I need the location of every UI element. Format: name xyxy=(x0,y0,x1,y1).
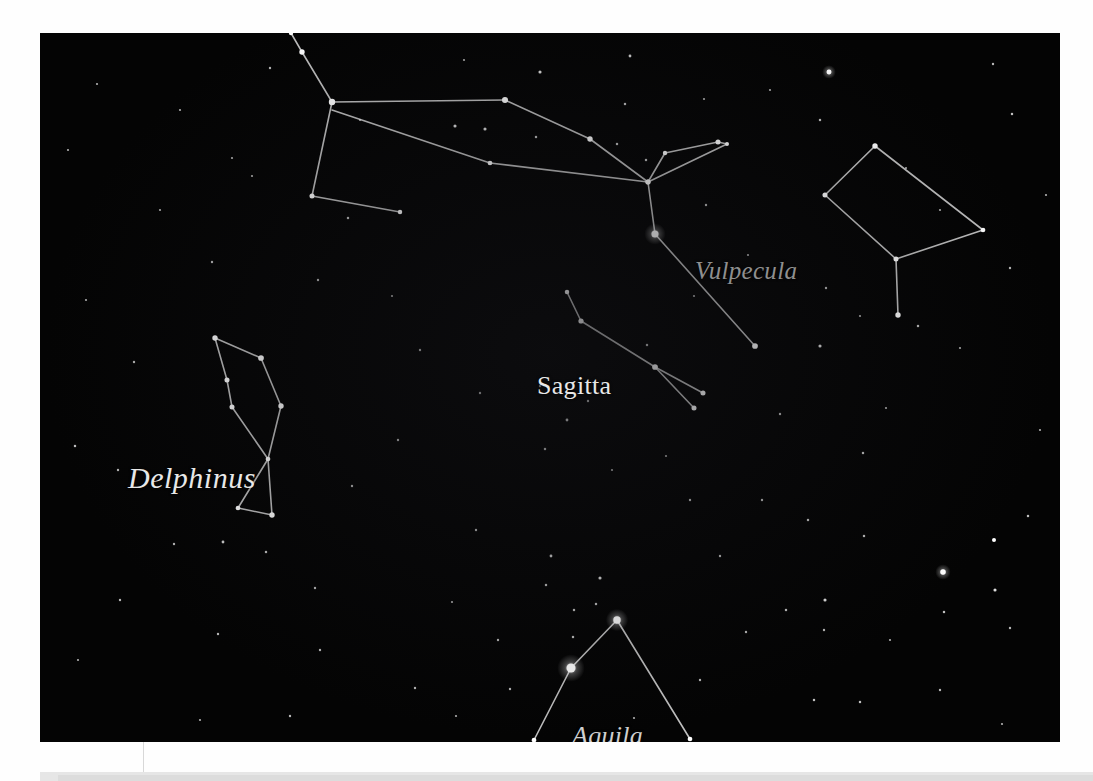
constellation-line-cygnus xyxy=(490,163,648,182)
constellation-label-vulpecula: Vulpecula xyxy=(695,257,797,285)
background-star xyxy=(633,717,635,719)
background-star xyxy=(535,136,538,139)
background-star xyxy=(992,63,994,65)
background-star xyxy=(693,295,695,297)
background-star xyxy=(222,541,225,544)
star-aquila xyxy=(688,737,693,742)
background-star xyxy=(939,689,941,691)
constellation-line-delphinus xyxy=(268,459,272,515)
star-cygnus xyxy=(502,97,508,103)
background-star xyxy=(818,344,821,347)
background-star xyxy=(251,175,253,177)
background-star xyxy=(544,448,547,451)
background-star xyxy=(314,587,316,589)
background-star xyxy=(1027,515,1030,518)
star-delphinus xyxy=(236,506,241,511)
star-delphinus xyxy=(258,355,264,361)
background-star xyxy=(475,529,477,531)
background-star xyxy=(455,715,457,717)
star-sagitta xyxy=(652,364,658,370)
constellation-line-cygnus xyxy=(302,52,332,102)
star-cygnus xyxy=(651,230,658,237)
background-star xyxy=(572,636,575,639)
background-star xyxy=(889,639,891,641)
background-star xyxy=(819,119,822,122)
background-star xyxy=(719,555,721,557)
constellation-line-cygnus xyxy=(291,33,302,52)
background-star xyxy=(497,639,499,641)
constellation-line-pegasus-equuleus xyxy=(825,195,896,259)
background-star xyxy=(863,535,866,538)
star-delphinus xyxy=(269,512,274,517)
background-star xyxy=(289,715,291,717)
background-star xyxy=(943,611,946,614)
background-star xyxy=(624,103,627,106)
background-star xyxy=(85,299,87,301)
background-star xyxy=(1009,267,1011,269)
constellation-line-cygnus xyxy=(655,234,755,346)
background-star xyxy=(479,392,481,394)
constellation-line-delphinus xyxy=(215,338,227,380)
background-star xyxy=(823,598,826,601)
background-star xyxy=(573,609,576,612)
background-star xyxy=(1009,627,1011,629)
background-star xyxy=(629,55,632,58)
star-cygnus xyxy=(309,193,314,198)
background-star xyxy=(545,584,548,587)
constellation-line-cygnus xyxy=(312,102,332,196)
star-vulpecula xyxy=(715,139,720,144)
background-star xyxy=(159,209,161,211)
background-star xyxy=(905,167,907,169)
constellation-line-pegasus-equuleus xyxy=(875,146,983,230)
star-delphinus xyxy=(224,377,229,382)
background-star xyxy=(813,699,816,702)
background-star xyxy=(483,127,486,130)
background-star xyxy=(1001,723,1003,725)
background-star xyxy=(825,287,827,289)
background-star xyxy=(566,419,569,422)
background-star xyxy=(199,719,201,721)
background-star xyxy=(1045,194,1047,196)
star-cygnus xyxy=(329,99,335,105)
background-star xyxy=(231,157,233,159)
background-star xyxy=(827,70,832,75)
background-star xyxy=(959,347,961,349)
background-star xyxy=(859,701,862,704)
background-star xyxy=(1011,113,1014,116)
constellation-line-cygnus xyxy=(505,100,590,139)
background-star xyxy=(761,499,763,501)
constellation-line-sagitta xyxy=(581,321,655,367)
background-star xyxy=(419,349,421,351)
background-star xyxy=(747,254,749,256)
constellation-line-sagitta xyxy=(655,367,694,408)
constellation-line-sagitta xyxy=(567,292,581,321)
background-star xyxy=(397,439,399,441)
constellation-line-pegasus-equuleus xyxy=(896,259,898,315)
constellation-line-pegasus-equuleus xyxy=(896,230,983,259)
background-star xyxy=(598,576,601,579)
background-star xyxy=(885,407,887,409)
background-star xyxy=(179,109,181,111)
constellation-line-delphinus xyxy=(215,338,261,358)
background-star xyxy=(917,325,920,328)
background-star xyxy=(211,261,213,263)
star-cygnus xyxy=(587,136,592,141)
star-delphinus xyxy=(266,457,271,462)
background-star xyxy=(785,609,788,612)
background-star xyxy=(317,279,319,281)
background-star xyxy=(862,452,865,455)
star-delphinus xyxy=(212,335,217,340)
background-star xyxy=(689,499,691,501)
star-pegasus-equuleus xyxy=(895,312,900,317)
background-star xyxy=(509,688,511,690)
page-bottom-band-inner xyxy=(58,775,1093,781)
background-star xyxy=(351,485,353,487)
background-star xyxy=(347,217,350,220)
star-pegasus-equuleus xyxy=(822,192,827,197)
constellation-line-pegasus-equuleus xyxy=(825,146,875,195)
background-star xyxy=(391,295,393,297)
background-star xyxy=(453,124,456,127)
background-star xyxy=(173,543,175,545)
background-star xyxy=(779,413,781,415)
background-star xyxy=(940,569,946,575)
